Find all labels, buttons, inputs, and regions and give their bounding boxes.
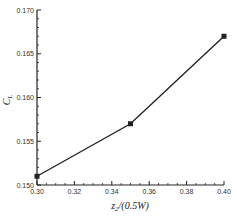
x-tick-label: 0.36 [142,188,156,195]
series-line [37,36,224,176]
x-tick-label: 0.30 [30,188,44,195]
data-series [35,34,227,179]
x-axis-ticks: 0.300.320.340.360.380.40 [30,181,231,195]
data-point-marker [35,174,40,179]
x-axis-title: z2/(0.5W) [110,200,149,213]
line-chart: 0.1500.1550.1600.1650.170 0.300.320.340.… [0,0,237,216]
y-tick-label: 0.155 [16,138,34,145]
y-tick-label: 0.170 [16,7,34,14]
axes [37,10,224,185]
x-tick-label: 0.38 [180,188,194,195]
x-tick-label: 0.34 [105,188,119,195]
data-point-marker [128,121,133,126]
y-tick-label: 0.160 [16,94,34,101]
data-point-marker [222,34,227,39]
y-axis-title: CL [1,95,14,106]
x-tick-label: 0.32 [68,188,82,195]
x-tick-label: 0.40 [217,188,231,195]
y-tick-label: 0.165 [16,50,34,57]
